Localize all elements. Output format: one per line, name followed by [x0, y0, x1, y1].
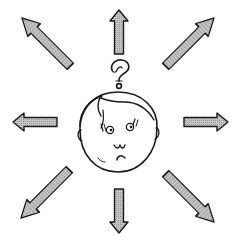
question-mark-icon [112, 60, 129, 89]
face-illustration [78, 92, 159, 172]
arrow-up-icon [110, 10, 128, 54]
arrow-down-left-icon [15, 163, 76, 224]
diagram-canvas [0, 0, 240, 244]
arrow-up-right-icon [159, 12, 220, 73]
arrow-up-left-icon [16, 12, 77, 73]
arrow-down-icon [110, 189, 128, 233]
arrow-down-right-icon [159, 167, 220, 228]
arrow-left-icon [13, 113, 57, 131]
arrow-right-icon [184, 113, 228, 131]
